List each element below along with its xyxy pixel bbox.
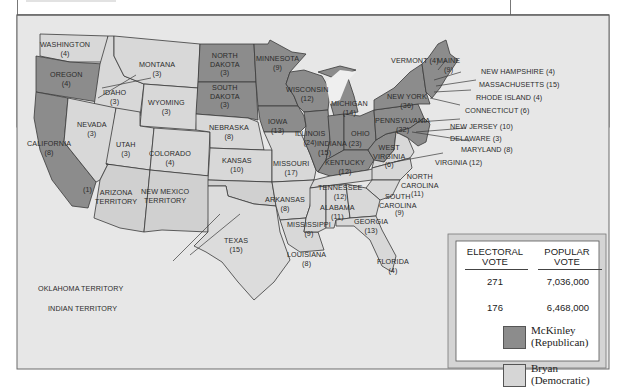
label-iowa: IOWA(13): [268, 118, 287, 135]
state-votes: (12): [325, 168, 365, 177]
label-texas: TEXAS(15): [224, 237, 248, 254]
label-connecticut: CONNECTICUT (6): [465, 107, 529, 116]
swatch-democratic: [503, 364, 526, 387]
label-north-carolina: NORTHCAROLINA: [401, 173, 439, 190]
label-indian-territory: INDIAN TERRITORY: [48, 305, 117, 314]
label-utah: UTAH(3): [116, 141, 135, 158]
header-line: VOTE: [535, 257, 599, 267]
label-maine: MAINE(9): [437, 57, 460, 74]
label-colorado: COLORADO(4): [149, 150, 191, 167]
state-votes: (8): [27, 149, 71, 158]
state-votes: (9): [256, 64, 299, 73]
label-arizona: ARIZONATERRITORY: [95, 189, 137, 206]
state-votes: (4): [50, 80, 83, 89]
state-votes: (14): [331, 109, 368, 118]
state-votes: (3): [148, 108, 185, 117]
state-votes: (8): [265, 205, 305, 214]
bryan-electoral: 176: [462, 302, 528, 313]
label-south-carolina-votes: (9): [395, 209, 404, 218]
state-votes: (32): [375, 126, 430, 135]
label-nebraska: NEBRASKA(8): [209, 124, 249, 141]
label-montana: MONTANA(3): [139, 61, 175, 78]
state-votes: (3): [116, 150, 135, 159]
state-votes: (6): [373, 161, 405, 170]
state-votes: (12): [318, 193, 362, 202]
state-votes: (8): [209, 133, 249, 142]
state-votes: (4): [377, 267, 409, 276]
label-kentucky: KENTUCKY(12): [325, 159, 365, 176]
state-votes: (15): [224, 246, 248, 255]
party-name: (Democratic): [531, 374, 590, 386]
label-oklahoma-territory: OKLAHOMA TERRITORY: [38, 285, 123, 294]
label-virginia: VIRGINIA (12): [435, 159, 482, 168]
key-bryan: Bryan(Democratic): [531, 362, 590, 386]
state-votes: (3): [139, 70, 175, 79]
territory-suffix: TERRITORY: [141, 197, 189, 206]
mckinley-electoral: 271: [462, 276, 528, 287]
state-votes: (9): [437, 66, 460, 75]
header-line: VOTE: [462, 257, 528, 267]
label-tennessee: TENNESSEE(12): [318, 184, 362, 201]
state-votes: (10): [222, 166, 252, 175]
label-new-mexico: NEW MEXICOTERRITORY: [141, 188, 189, 205]
state-votes: (8): [287, 260, 326, 269]
label-mississippi: MISSISSIPPI(9): [287, 221, 331, 238]
label-maryland: MARYLAND (8): [461, 146, 513, 155]
header-rule: [538, 269, 602, 270]
key-mckinley: McKinley(Republican): [531, 324, 588, 348]
label-washington: WASHINGTON(4): [40, 41, 90, 58]
label-north-carolina-votes: (11): [411, 190, 424, 199]
state-votes: (36): [387, 102, 427, 111]
state-votes: (3): [77, 130, 107, 139]
label-south-dakota: SOUTHDAKOTA(3): [210, 84, 240, 110]
label-new-hampshire: NEW HAMPSHIRE (4): [481, 68, 555, 77]
label-vermont: VERMONT (4): [391, 57, 439, 66]
label-wisconsin: WISCONSIN(12): [286, 86, 328, 103]
label-nevada: NEVADA(3): [77, 121, 107, 138]
label-wyoming: WYOMING(3): [148, 99, 185, 116]
candidate-name: McKinley: [531, 324, 588, 336]
label-louisiana: LOUISIANA(8): [287, 251, 326, 268]
label-new-york: NEW YORK(36): [387, 93, 427, 110]
label-ohio: OHIO: [351, 130, 370, 139]
label-michigan: MICHIGAN(14): [331, 100, 368, 117]
label-oregon: OREGON(4): [50, 71, 83, 88]
mckinley-popular: 7,036,000: [535, 276, 601, 287]
label-georgia: GEORGIA(13): [354, 218, 388, 235]
label-indiana-votes: (15): [318, 149, 331, 158]
state-votes: (17): [273, 169, 309, 178]
header-popular-vote: POPULARVOTE: [535, 247, 599, 267]
label-california-note: (1): [83, 186, 92, 195]
state-votes: (9): [287, 230, 331, 239]
state-votes: (4): [40, 50, 90, 59]
label-missouri: MISSOURI(17): [273, 160, 309, 177]
label-arkansas: ARKANSAS(8): [265, 196, 305, 213]
label-west-virginia: WESTVIRGINIA(6): [373, 144, 405, 170]
state-votes: (3): [210, 101, 240, 110]
bryan-popular: 6,468,000: [535, 302, 601, 313]
state-votes: (13): [354, 227, 388, 236]
label-rhode-island: RHODE ISLAND (4): [476, 94, 542, 103]
state-votes: (4): [149, 159, 191, 168]
state-votes: (3): [103, 98, 126, 107]
label-florida: FLORIDA(4): [377, 258, 409, 275]
swatch-republican: [503, 326, 526, 349]
label-pennsylvania: PENNSYLVANIA(32): [375, 117, 430, 134]
state-votes: (12): [286, 95, 328, 104]
label-minnesota: MINNESOTA(9): [256, 55, 299, 72]
label-california: CALIFORNIA(8): [27, 140, 71, 157]
header-electoral-vote: ELECTORALVOTE: [462, 247, 528, 267]
label-delaware: DELAWARE (3): [450, 135, 502, 144]
party-name: (Republican): [531, 336, 588, 348]
label-massachusetts: MASSACHUSETTS (15): [479, 81, 559, 90]
label-kansas: KANSAS(10): [222, 157, 252, 174]
label-idaho: IDAHO(3): [103, 89, 126, 106]
state-votes: (13): [268, 127, 287, 136]
territory-suffix: TERRITORY: [95, 198, 137, 207]
state-votes: (11): [320, 213, 355, 222]
state-votes: (3): [210, 69, 240, 78]
label-new-jersey: NEW JERSEY (10): [450, 123, 513, 132]
candidate-name: Bryan: [531, 362, 590, 374]
label-north-dakota: NORTHDAKOTA(3): [210, 52, 240, 78]
label-alabama: ALABAMA(11): [320, 204, 355, 221]
